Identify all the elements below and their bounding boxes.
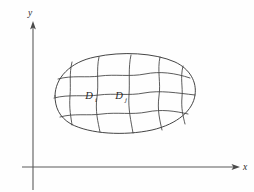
x-axis-label: x <box>242 162 248 172</box>
subregion-label-di: D i <box>84 90 97 104</box>
subregion-label-dj: D j <box>114 90 127 104</box>
subregion-label-dj-base: D <box>114 90 123 101</box>
coordinate-plane-figure: y x D i D j <box>0 0 254 192</box>
y-axis-label: y <box>27 8 33 18</box>
grid-curve-horizontal-3 <box>60 111 188 117</box>
subregion-label-di-base: D <box>84 90 93 101</box>
subregion-label-dj-subscript: j <box>124 96 127 104</box>
region-outline <box>55 54 195 134</box>
subregion-label-di-subscript: i <box>95 96 97 104</box>
grid-curve-vertical-5 <box>182 66 185 124</box>
figure-container: y x D i D j <box>0 0 254 192</box>
grid-curve-horizontal-1 <box>58 73 190 79</box>
grid-curve-vertical-2 <box>96 57 100 132</box>
grid-curve-vertical-4 <box>158 57 162 130</box>
